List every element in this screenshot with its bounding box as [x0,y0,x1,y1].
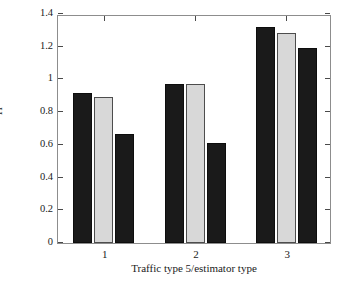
y-tick-right [325,144,330,145]
y-tick: 1 [58,78,63,79]
x-tick-label: 2 [181,248,211,260]
y-tick-right [325,78,330,79]
x-tick-label: 3 [272,248,302,260]
y-tick: 0.4 [58,177,63,178]
y-axis-title: H [0,71,4,151]
y-tick-label: 0.2 [23,203,53,214]
bar-group1-series3 [115,134,134,243]
y-tick: 0.8 [58,111,63,112]
y-tick: 1.2 [58,46,63,47]
y-tick-right [325,13,330,14]
bar-group2-series2 [186,84,205,243]
y-tick-right [325,177,330,178]
y-tick: 1.4 [58,13,63,14]
bar-group3-series3 [298,48,317,243]
y-tick-label: 0 [23,236,53,247]
y-tick-right [325,209,330,210]
bar-chart-figure: H Traffic type 5/estimator type 00.20.40… [0,0,351,284]
x-tick-label: 1 [90,248,120,260]
y-tick-label: 1 [23,72,53,83]
y-tick: 0 [58,242,63,243]
y-tick-label: 0.6 [23,138,53,149]
x-tick-top [104,16,105,21]
bar-group1-series1 [73,93,92,243]
y-tick-label: 1.2 [23,40,53,51]
y-tick-right [325,46,330,47]
bar-group3-series1 [256,27,275,243]
y-tick-right [325,242,330,243]
y-tick-label: 0.4 [23,171,53,182]
y-tick-label: 1.4 [23,7,53,18]
y-tick-right [325,111,330,112]
bar-group2-series1 [165,84,184,243]
bar-group1-series2 [94,97,113,243]
x-axis-title: Traffic type 5/estimator type [57,262,331,274]
x-tick-top [195,16,196,21]
bar-group3-series2 [277,33,296,243]
x-tick-top [286,16,287,21]
bar-group2-series3 [207,143,226,243]
y-tick-label: 0.8 [23,105,53,116]
y-tick: 0.6 [58,144,63,145]
y-tick: 0.2 [58,209,63,210]
plot-area: 00.20.40.60.811.21.4 123 [57,15,331,244]
